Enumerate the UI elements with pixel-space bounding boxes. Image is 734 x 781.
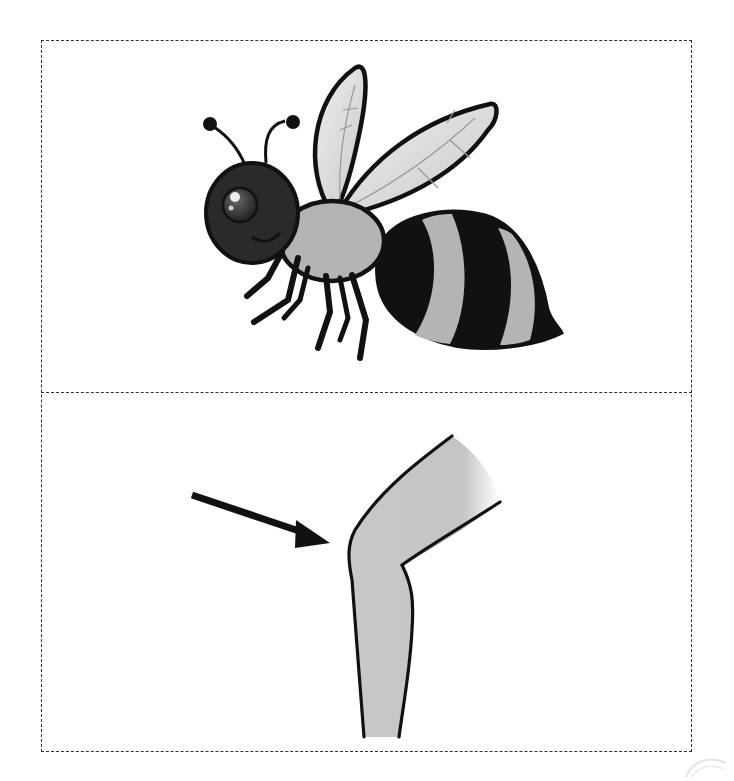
bee-antennae: [203, 115, 300, 165]
knee-illustration: [0, 392, 734, 754]
bee-abdomen: [377, 211, 562, 348]
bee-head: [206, 163, 298, 263]
bee-eye: [223, 188, 257, 222]
watermark-logo: [674, 747, 734, 781]
bee-illustration: [0, 0, 734, 392]
arrow-pointer: [192, 495, 330, 548]
knee-panel: [0, 392, 734, 754]
bee-panel: [0, 0, 734, 392]
knee-leg: [349, 436, 500, 737]
